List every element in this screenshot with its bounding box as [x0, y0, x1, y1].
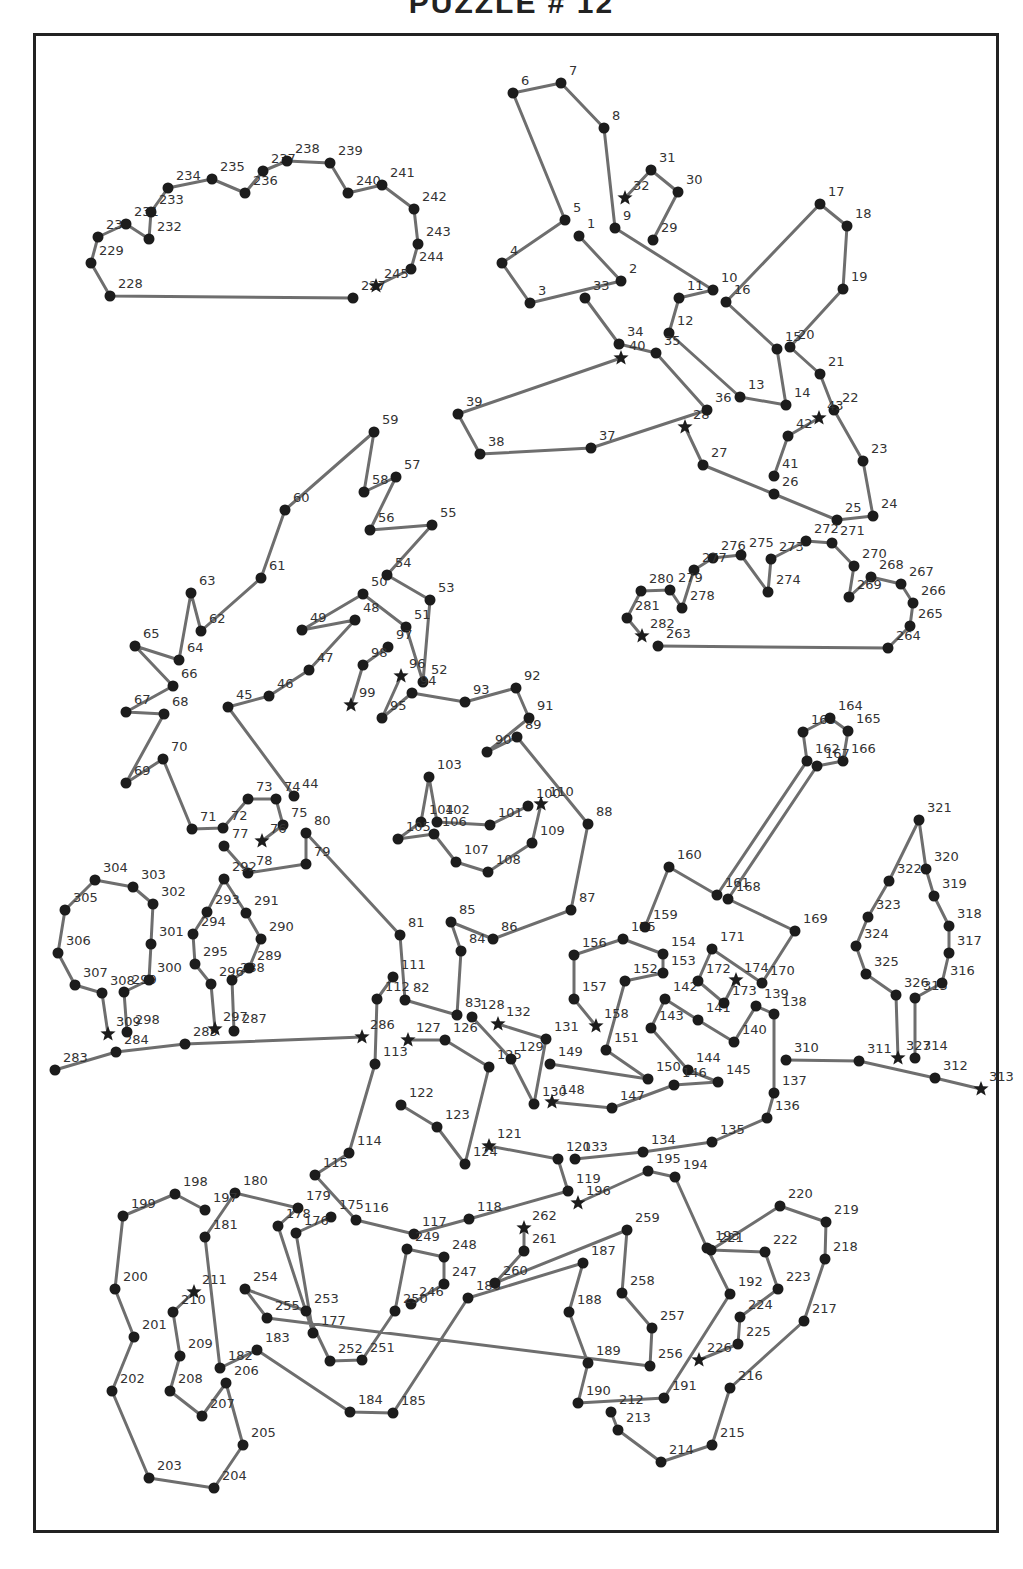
dot-number-label: 23: [871, 441, 888, 456]
dot-number-label: 173: [732, 983, 757, 998]
dot-point: [601, 1045, 612, 1056]
dot-point: [702, 405, 713, 416]
dot-number-label: 124: [473, 1144, 498, 1159]
dot-number-label: 270: [862, 546, 887, 561]
dot-number-label: 34: [627, 324, 644, 339]
dot-number-label: 275: [749, 535, 774, 550]
dot-number-label: 319: [942, 876, 967, 891]
dot-number-label: 253: [314, 1291, 339, 1306]
dot-point: [512, 732, 523, 743]
dot-point: [578, 1258, 589, 1269]
dot-point: [669, 1080, 680, 1091]
dot-point: [148, 899, 159, 910]
dot-number-label: 84: [469, 931, 486, 946]
dot-number-label: 154: [671, 934, 696, 949]
dot-point: [790, 926, 801, 937]
dot-number-label: 295: [203, 944, 228, 959]
dot-point: [610, 223, 621, 234]
dot-number-label: 267: [909, 564, 934, 579]
dot-point: [647, 1323, 658, 1334]
dot-point: [369, 427, 380, 438]
dot-number-label: 117: [422, 1214, 447, 1229]
dot-number-label: 261: [532, 1231, 557, 1246]
dot-point: [640, 922, 651, 933]
dot-point: [863, 912, 874, 923]
dot-point: [580, 293, 591, 304]
dot-number-label: 149: [558, 1044, 583, 1059]
dot-point: [424, 772, 435, 783]
dot-point: [200, 1205, 211, 1216]
dot-point: [482, 747, 493, 758]
dot-number-label: 97: [396, 627, 413, 642]
dot-point: [50, 1065, 61, 1076]
dot-number-label: 132: [506, 1004, 531, 1019]
dot-number-label: 66: [181, 666, 198, 681]
star-icon: [890, 1050, 905, 1065]
dot-point: [868, 511, 879, 522]
dot-point: [427, 520, 438, 531]
dot-number-label: 36: [715, 390, 732, 405]
dot-number-label: 68: [172, 694, 189, 709]
dot-point: [93, 232, 104, 243]
dot-number-label: 76: [270, 821, 287, 836]
dot-number-label: 239: [338, 143, 363, 158]
dot-point: [174, 655, 185, 666]
dot-point: [827, 538, 838, 549]
star-icon: [100, 1026, 115, 1041]
dot-point: [884, 876, 895, 887]
dot-number-label: 118: [477, 1199, 502, 1214]
dot-point: [218, 823, 229, 834]
dot-point: [241, 908, 252, 919]
dot-point: [128, 882, 139, 893]
dot-point: [569, 994, 580, 1005]
dot-point: [785, 342, 796, 353]
star-icon: [613, 350, 628, 365]
dot-number-label: 218: [833, 1239, 858, 1254]
dot-point: [377, 713, 388, 724]
dot-point: [350, 615, 361, 626]
dot-point: [297, 625, 308, 636]
dot-point: [656, 1457, 667, 1468]
dot-number-label: 55: [440, 505, 457, 520]
dot-number-label: 75: [291, 805, 308, 820]
dot-number-label: 202: [120, 1371, 145, 1386]
dot-number-label: 222: [773, 1232, 798, 1247]
dot-number-label: 1: [587, 216, 595, 231]
dot-number-label: 217: [812, 1301, 837, 1316]
dot-point: [144, 975, 155, 986]
dot-number-label: 266: [921, 583, 946, 598]
dot-number-label: 292: [232, 859, 257, 874]
dot-point: [196, 626, 207, 637]
dot-point: [556, 78, 567, 89]
dot-number-label: 195: [656, 1151, 681, 1166]
dot-number-label: 294: [201, 914, 226, 929]
dot-number-label: 90: [495, 732, 512, 747]
dot-number-label: 170: [770, 963, 795, 978]
dot-number-label: 42: [796, 416, 813, 431]
dot-point: [606, 1407, 617, 1418]
dot-number-label: 25: [845, 500, 862, 515]
dot-point: [564, 1307, 575, 1318]
dot-point: [843, 726, 854, 737]
dot-number-label: 308: [110, 973, 135, 988]
dot-point: [766, 554, 777, 565]
dot-point: [310, 1170, 321, 1181]
dot-number-label: 21: [828, 354, 845, 369]
dot-point: [348, 293, 359, 304]
dot-number-label: 316: [950, 963, 975, 978]
dot-point: [70, 980, 81, 991]
dot-number-label: 107: [464, 842, 489, 857]
dot-point: [121, 219, 132, 230]
dot-point: [121, 778, 132, 789]
dot-point: [197, 1411, 208, 1422]
dot-number-label: 243: [426, 224, 451, 239]
dot-number-label: 318: [957, 906, 982, 921]
dot-point: [463, 1293, 474, 1304]
dot-number-label: 95: [390, 698, 407, 713]
dot-point: [175, 1351, 186, 1362]
dot-number-label: 144: [696, 1050, 721, 1065]
dot-point: [244, 963, 255, 974]
dot-point: [721, 297, 732, 308]
dot-number-label: 148: [560, 1082, 585, 1097]
dot-point: [293, 1203, 304, 1214]
